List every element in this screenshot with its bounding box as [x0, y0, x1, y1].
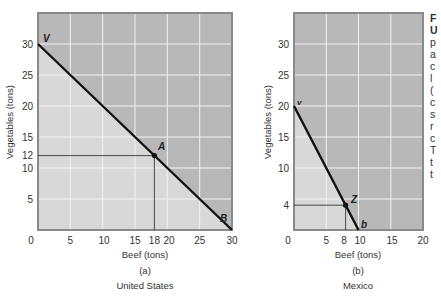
chart-united-states: V A B 5 10 12 15 20 25 30 0 5 10 15 18 2… — [0, 0, 245, 297]
svg-text:5: 5 — [324, 235, 330, 246]
point-z-marker — [343, 203, 348, 208]
svg-text:30: 30 — [22, 39, 34, 50]
caption-char: s — [430, 108, 441, 120]
svg-text:10: 10 — [98, 235, 110, 246]
svg-text:12: 12 — [22, 150, 34, 161]
svg-text:25: 25 — [194, 235, 206, 246]
caption-char: T — [430, 144, 441, 156]
x-tick-labels: 0 5 10 15 18 20 25 30 — [28, 235, 238, 246]
svg-text:15: 15 — [386, 235, 398, 246]
svg-text:0: 0 — [28, 235, 34, 246]
svg-text:30: 30 — [278, 39, 290, 50]
caption-char: l — [430, 72, 441, 84]
point-z-label: Z — [350, 194, 358, 205]
panel-sublabel: (a) — [139, 265, 151, 276]
caption-char: c — [430, 96, 441, 108]
svg-text:20: 20 — [278, 101, 290, 112]
svg-text:15: 15 — [278, 132, 290, 143]
point-v-label: v — [297, 98, 302, 107]
svg-text:10: 10 — [278, 163, 290, 174]
point-a-label: A — [157, 141, 165, 152]
caption-char: r — [430, 120, 441, 132]
truncated-figure-caption: F U p a c l ( c s r c T t t — [430, 12, 441, 180]
panel-country-label: Mexico — [343, 280, 373, 291]
caption-char: c — [430, 60, 441, 72]
caption-char: t — [430, 168, 441, 180]
svg-text:25: 25 — [278, 70, 290, 81]
svg-text:10: 10 — [22, 163, 34, 174]
caption-char: t — [430, 156, 441, 168]
y-axis-label: Vegetables (tons) — [4, 85, 15, 159]
x-tick-labels: 0 5 8 10 15 20 — [285, 235, 429, 246]
panel-united-states: V A B 5 10 12 15 20 25 30 0 5 10 15 18 2… — [0, 0, 245, 297]
x-axis-label: Beef (tons) — [122, 249, 168, 260]
caption-char: p — [430, 36, 441, 48]
caption-char: U — [430, 24, 441, 36]
svg-text:15: 15 — [22, 132, 34, 143]
point-a-marker — [152, 153, 157, 158]
y-tick-labels: 5 10 12 15 20 25 30 — [22, 39, 34, 205]
svg-text:20: 20 — [22, 101, 34, 112]
panel-country-label: United States — [116, 280, 173, 291]
svg-text:0: 0 — [285, 235, 291, 246]
x-axis-label: Beef (tons) — [335, 249, 381, 260]
svg-text:5: 5 — [68, 235, 74, 246]
panel-sublabel: (b) — [352, 265, 364, 276]
svg-text:18: 18 — [149, 235, 161, 246]
caption-char: F — [430, 12, 441, 24]
caption-char: c — [430, 132, 441, 144]
svg-text:20: 20 — [163, 235, 175, 246]
point-b-label: b — [361, 219, 367, 230]
svg-text:4: 4 — [283, 200, 289, 211]
svg-text:25: 25 — [22, 70, 34, 81]
chart-mexico: v Z b 4 10 15 20 25 30 0 5 8 10 15 20 Be… — [245, 0, 430, 297]
caption-char: ( — [430, 84, 441, 96]
y-axis-label: Vegetables (tons) — [262, 85, 273, 159]
panel-mexico: v Z b 4 10 15 20 25 30 0 5 8 10 15 20 Be… — [245, 0, 430, 297]
point-b-label: B — [220, 213, 227, 224]
svg-text:5: 5 — [27, 194, 33, 205]
svg-text:20: 20 — [417, 235, 429, 246]
svg-text:30: 30 — [226, 235, 238, 246]
svg-text:10: 10 — [354, 235, 366, 246]
y-tick-labels: 4 10 15 20 25 30 — [278, 39, 290, 211]
svg-text:15: 15 — [129, 235, 141, 246]
caption-char: a — [430, 48, 441, 60]
svg-text:8: 8 — [341, 235, 347, 246]
